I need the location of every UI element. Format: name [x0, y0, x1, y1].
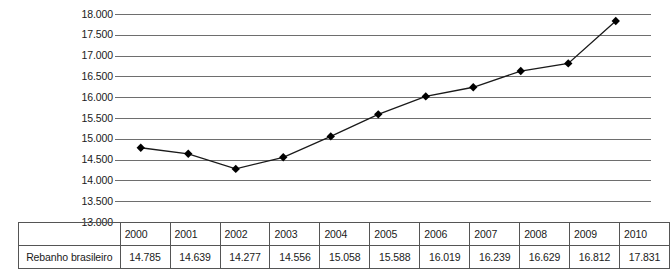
table-year-header: 2003 [270, 223, 320, 246]
table-value-cell: 14.785 [120, 246, 170, 269]
data-point-marker [517, 67, 525, 75]
table-year-header: 2005 [370, 223, 420, 246]
series-line-rebanho-brasileiro [141, 21, 616, 169]
data-point-marker [327, 132, 335, 140]
table-corner-blank [19, 223, 121, 246]
table-year-header: 2001 [170, 223, 220, 246]
table-value-cell: 14.277 [220, 246, 270, 269]
data-point-marker [184, 150, 192, 158]
table-year-header: 2007 [470, 223, 520, 246]
table-value-cell: 15.058 [320, 246, 370, 269]
table-value-cell: 16.629 [520, 246, 570, 269]
data-table: 2000200120022003200420052006200720082009… [18, 222, 670, 269]
data-point-marker [279, 153, 287, 161]
table-year-header: 2004 [320, 223, 370, 246]
data-point-marker [374, 110, 382, 118]
data-point-marker [232, 165, 240, 173]
table-row: Rebanho brasileiro 14.78514.63914.27714.… [19, 246, 670, 269]
table-row-label: Rebanho brasileiro [19, 246, 121, 269]
table-year-header: 2010 [620, 223, 670, 246]
table-value-cell: 14.556 [270, 246, 320, 269]
table-year-header: 2000 [120, 223, 170, 246]
table-value-cell: 16.019 [420, 246, 470, 269]
data-point-marker [137, 144, 145, 152]
data-point-marker [469, 83, 477, 91]
table-value-cell: 16.812 [570, 246, 620, 269]
series-marker-group [137, 17, 620, 173]
table-value-cell: 15.588 [370, 246, 420, 269]
line-series-svg [0, 0, 670, 225]
chart-figure: 18.00017.50017.00016.50016.00015.50015.0… [0, 0, 670, 279]
table-year-header: 2002 [220, 223, 270, 246]
table-year-header: 2008 [520, 223, 570, 246]
table-value-cell: 14.639 [170, 246, 220, 269]
table-value-cell: 17.831 [620, 246, 670, 269]
data-point-marker [422, 92, 430, 100]
table-value-cell: 16.239 [470, 246, 520, 269]
table-header-row: 2000200120022003200420052006200720082009… [19, 223, 670, 246]
chart-plot-area: 18.00017.50017.00016.50016.00015.50015.0… [0, 0, 670, 225]
table-year-header: 2006 [420, 223, 470, 246]
table-year-header: 2009 [570, 223, 620, 246]
